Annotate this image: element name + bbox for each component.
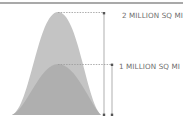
arrowhead-bottom-1m (111, 114, 113, 116)
arrowhead-top-2m (103, 12, 105, 14)
arrowhead-bottom-2m (103, 114, 105, 116)
arrowhead-top-1m (111, 64, 113, 66)
label-2-million: 2 MILLION SQ MI (122, 12, 183, 19)
label-1-million: 1 MILLION SQ MI (119, 63, 180, 70)
